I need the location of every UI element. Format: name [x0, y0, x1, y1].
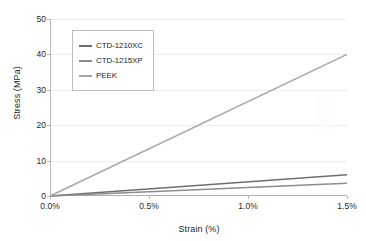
y-tick-label: 30 [2, 86, 46, 95]
y-tick-label: 40 [2, 50, 46, 59]
y-tick-label: 20 [2, 121, 46, 130]
stress-strain-chart: Stress (MPa) 01020304050 Strain (%) 0.0%… [0, 0, 366, 241]
legend: CTD-1210XCCTD-1215XPPEEK [72, 30, 154, 91]
legend-item: PEEK [79, 69, 143, 82]
y-tick-label: 50 [2, 15, 46, 24]
legend-item: CTD-1210XC [79, 39, 143, 52]
x-tick-label: 0.0% [40, 202, 59, 211]
legend-label: CTD-1215XP [96, 56, 143, 65]
x-tick-label: 1.5% [337, 202, 356, 211]
legend-swatch-icon [79, 75, 92, 77]
x-tick-label: 0.5% [139, 202, 158, 211]
x-tickmark [347, 196, 348, 199]
x-tick-label: 1.0% [238, 202, 257, 211]
legend-swatch-icon [79, 45, 92, 47]
legend-swatch-icon [79, 60, 92, 62]
x-tickmark [149, 196, 150, 199]
legend-label: CTD-1210XC [96, 41, 143, 50]
legend-item: CTD-1215XP [79, 54, 143, 67]
legend-label: PEEK [96, 71, 117, 80]
x-tickmark [248, 196, 249, 199]
y-tick-label: 0 [2, 192, 46, 201]
y-tick-labels: 01020304050 [0, 0, 46, 241]
y-tick-label: 10 [2, 156, 46, 165]
compression-artifact [316, 96, 334, 134]
x-axis-title: Strain (%) [50, 224, 348, 234]
plot-area: CTD-1210XCCTD-1215XPPEEK [50, 19, 347, 196]
